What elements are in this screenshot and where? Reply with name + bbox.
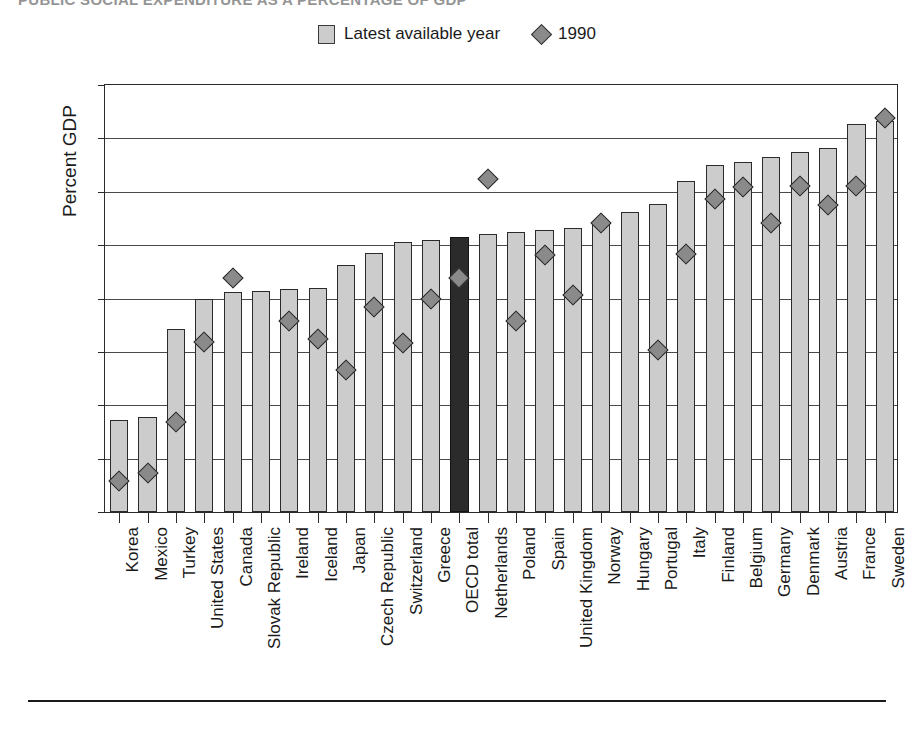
x-label-slovak-republic: Slovak Republic bbox=[266, 527, 283, 649]
bar-group[interactable] bbox=[786, 85, 814, 512]
x-tick-mark bbox=[885, 512, 886, 523]
x-label-austria: Austria bbox=[833, 527, 850, 580]
bar-group[interactable] bbox=[133, 85, 161, 512]
x-label-italy: Italy bbox=[691, 527, 708, 558]
bar-group[interactable] bbox=[672, 85, 700, 512]
bar-poland[interactable] bbox=[507, 232, 525, 512]
bar-norway[interactable] bbox=[592, 224, 610, 512]
x-label-sweden: Sweden bbox=[890, 527, 907, 588]
bar-group[interactable] bbox=[757, 85, 785, 512]
bar-group[interactable] bbox=[474, 85, 502, 512]
bar-group[interactable] bbox=[190, 85, 218, 512]
bar-group[interactable] bbox=[530, 85, 558, 512]
x-label-canada: Canada bbox=[238, 527, 255, 587]
x-tick-mark bbox=[459, 512, 460, 523]
bar-group[interactable] bbox=[218, 85, 246, 512]
y-tick-mark-0 bbox=[98, 512, 105, 513]
bar-czech-republic[interactable] bbox=[365, 253, 383, 512]
legend-label-1990: 1990 bbox=[558, 24, 596, 44]
x-tick-mark bbox=[545, 512, 546, 523]
x-tick-mark bbox=[431, 512, 432, 523]
marker-1990-canada[interactable] bbox=[222, 267, 243, 288]
bar-group[interactable] bbox=[701, 85, 729, 512]
bar-denmark[interactable] bbox=[791, 152, 809, 512]
x-tick-mark bbox=[148, 512, 149, 523]
bar-switzerland[interactable] bbox=[394, 242, 412, 512]
bar-greece[interactable] bbox=[422, 240, 440, 512]
bar-group[interactable] bbox=[842, 85, 870, 512]
bar-group[interactable] bbox=[162, 85, 190, 512]
bar-group[interactable] bbox=[644, 85, 672, 512]
bar-group[interactable] bbox=[332, 85, 360, 512]
bar-germany[interactable] bbox=[762, 157, 780, 512]
bar-group[interactable] bbox=[304, 85, 332, 512]
x-label-belgium: Belgium bbox=[748, 527, 765, 588]
bar-group[interactable] bbox=[871, 85, 899, 512]
x-label-greece: Greece bbox=[436, 527, 453, 583]
x-label-poland: Poland bbox=[521, 527, 538, 580]
x-label-japan: Japan bbox=[351, 527, 368, 573]
y-tick-mark-20 bbox=[98, 245, 105, 246]
bar-group[interactable] bbox=[417, 85, 445, 512]
x-tick-mark bbox=[119, 512, 120, 523]
x-label-ireland: Ireland bbox=[294, 527, 311, 579]
chart-legend: Latest available year 1990 bbox=[0, 24, 914, 44]
y-tick-mark-4 bbox=[98, 459, 105, 460]
bar-group[interactable] bbox=[559, 85, 587, 512]
marker-1990-netherlands[interactable] bbox=[477, 169, 498, 190]
bar-group[interactable] bbox=[445, 85, 473, 512]
x-label-oecd-total: OECD total bbox=[464, 527, 481, 613]
x-tick-mark bbox=[403, 512, 404, 523]
x-label-turkey: Turkey bbox=[181, 527, 198, 578]
bar-group[interactable] bbox=[587, 85, 615, 512]
bar-sweden[interactable] bbox=[876, 121, 894, 512]
bar-slovak-republic[interactable] bbox=[252, 291, 270, 513]
x-tick-mark bbox=[261, 512, 262, 523]
bar-group[interactable] bbox=[814, 85, 842, 512]
bar-italy[interactable] bbox=[677, 181, 695, 512]
x-label-mexico: Mexico bbox=[153, 527, 170, 581]
x-label-iceland: Iceland bbox=[323, 527, 340, 582]
bar-belgium[interactable] bbox=[734, 162, 752, 512]
bars-layer bbox=[105, 85, 897, 512]
plot-area: Percent GDP 048121620242832 bbox=[104, 84, 898, 513]
bar-group[interactable] bbox=[360, 85, 388, 512]
y-tick-mark-12 bbox=[98, 352, 105, 353]
bar-group[interactable] bbox=[729, 85, 757, 512]
y-axis-label: Percent GDP bbox=[59, 51, 81, 271]
bar-group[interactable] bbox=[389, 85, 417, 512]
x-label-switzerland: Switzerland bbox=[408, 527, 425, 615]
x-tick-mark bbox=[601, 512, 602, 523]
x-label-portugal: Portugal bbox=[663, 527, 680, 590]
x-tick-mark bbox=[856, 512, 857, 523]
bar-group[interactable] bbox=[275, 85, 303, 512]
x-tick-mark bbox=[630, 512, 631, 523]
bar-finland[interactable] bbox=[706, 165, 724, 512]
bar-iceland[interactable] bbox=[309, 288, 327, 512]
bar-group[interactable] bbox=[247, 85, 275, 512]
x-tick-mark bbox=[318, 512, 319, 523]
bar-korea[interactable] bbox=[110, 420, 128, 512]
x-tick-mark bbox=[176, 512, 177, 523]
x-tick-mark bbox=[488, 512, 489, 523]
x-tick-mark bbox=[289, 512, 290, 523]
bar-group[interactable] bbox=[105, 85, 133, 512]
bar-hungary[interactable] bbox=[621, 212, 639, 512]
x-tick-mark bbox=[715, 512, 716, 523]
x-tick-mark bbox=[686, 512, 687, 523]
x-tick-mark bbox=[771, 512, 772, 523]
bar-united-kingdom[interactable] bbox=[564, 228, 582, 512]
bar-group[interactable] bbox=[502, 85, 530, 512]
bar-japan[interactable] bbox=[337, 265, 355, 512]
bar-swatch-icon bbox=[318, 25, 335, 44]
x-tick-mark bbox=[233, 512, 234, 523]
y-tick-mark-28 bbox=[98, 138, 105, 139]
bar-canada[interactable] bbox=[224, 292, 242, 512]
x-tick-mark bbox=[516, 512, 517, 523]
x-tick-mark bbox=[573, 512, 574, 523]
bar-spain[interactable] bbox=[535, 230, 553, 512]
bar-united-states[interactable] bbox=[195, 299, 213, 513]
x-label-germany: Germany bbox=[776, 527, 793, 597]
bar-netherlands[interactable] bbox=[479, 234, 497, 512]
bar-group[interactable] bbox=[615, 85, 643, 512]
